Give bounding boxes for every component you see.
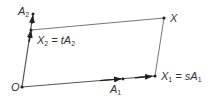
point-x2 [30,29,33,32]
point-x [162,16,165,19]
label-x2: X2 = tA2 [36,34,75,47]
arrow-x2-icon [29,31,31,42]
label-x: X [169,12,178,24]
edge-o-a2 [22,14,33,87]
arrow-a2-icon [32,16,33,24]
label-o: O [11,81,20,93]
edge-x2-x [31,18,164,30]
edge-x1-x [155,18,164,76]
label-a2: A2 [17,5,29,18]
point-a2 [32,13,35,16]
arrow-x1-icon [135,76,152,77]
point-x1 [153,74,156,77]
point-o [20,85,23,88]
label-x1: X1 = sA1 [160,70,202,83]
label-a1: A1 [109,83,121,96]
point-a1 [122,78,125,81]
vector-diagram: O A2 X2 = tA2 X X1 = sA1 A1 [0,0,212,98]
arrow-a1-icon [100,79,121,81]
